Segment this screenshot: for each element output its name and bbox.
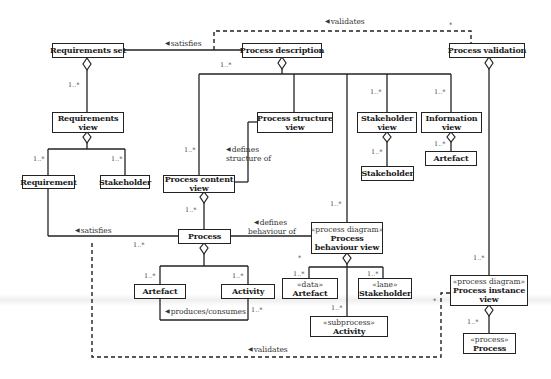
multiplicity: 1..*: [434, 88, 446, 96]
data-artefact-label: Artefact: [293, 289, 328, 298]
satisfies-mid-text: satisfies: [81, 226, 112, 235]
multiplicity: 1..*: [251, 306, 263, 314]
artefact-iv-label: Artefact: [434, 154, 469, 163]
multiplicity: 1..*: [185, 206, 197, 214]
process-instance-view-class: «process diagram» Process instance view: [450, 275, 528, 306]
requirements-view-class: Requirements view: [52, 112, 124, 133]
defines-structure-label: ◀defines structure of: [226, 144, 271, 163]
multiplicity: 1..*: [467, 318, 479, 326]
requirements-view-label-2: view: [79, 123, 98, 132]
artefact-class: Artefact: [134, 284, 186, 299]
process-validation-label: Process validation: [448, 46, 526, 55]
process-instance-view-label-2: view: [480, 295, 499, 304]
requirements-set-label: Requirements set: [50, 46, 126, 55]
process-label: Process: [188, 232, 221, 241]
requirements-set-class: Requirements set: [52, 43, 124, 58]
direction-arrow-icon: ◀: [165, 39, 170, 46]
satisfies-top-text: satisfies: [171, 39, 202, 48]
stakeholder-view-class: Stakeholder view: [357, 112, 417, 133]
multiplicity: 1..*: [220, 61, 232, 69]
process-content-view-class: Process content view: [163, 175, 235, 193]
multiplicity: 1..*: [367, 270, 379, 278]
defines-behaviour-text-1: defines: [260, 218, 287, 227]
multiplicity: 1..*: [473, 254, 485, 262]
direction-arrow-icon: ◀: [248, 345, 253, 352]
multiplicity: 1..*: [330, 200, 342, 208]
process-validation-class: Process validation: [449, 43, 525, 58]
direction-arrow-icon: ◀: [165, 307, 170, 314]
stakeholder-sv-class: Stakeholder: [361, 166, 414, 181]
direction-arrow-icon: ◀: [254, 218, 259, 225]
multiplicity: 1..*: [331, 304, 343, 312]
defines-structure-text-2: structure of: [226, 154, 271, 163]
produces-consumes-label: ◀produces/consumes: [165, 306, 246, 316]
direction-arrow-icon: ◀: [226, 145, 231, 152]
process-structure-view-label-2: view: [286, 123, 305, 132]
activity-label: Activity: [232, 287, 264, 296]
process-behaviour-view-label-2: behaviour view: [315, 243, 379, 252]
defines-behaviour-text-2: behaviour of: [248, 227, 296, 236]
process-description-class: Process description: [242, 43, 322, 58]
data-artefact-class: «data» Artefact: [282, 278, 338, 299]
process-behaviour-view-class: «process diagram» Process behaviour view: [311, 222, 383, 254]
multiplicity: 1..*: [370, 88, 382, 96]
multiplicity: *: [433, 297, 436, 305]
direction-arrow-icon: ◀: [75, 226, 80, 233]
activity-class: Activity: [221, 284, 275, 299]
multiplicity: 1..*: [144, 272, 156, 280]
process-instance-process-label: Process: [473, 344, 506, 353]
validates-top-text: validates: [331, 17, 365, 26]
process-instance-process-class: «process» Process: [463, 333, 516, 354]
multiplicity: *: [298, 254, 301, 262]
process-description-label: Process description: [240, 46, 324, 55]
multiplicity: 1..*: [232, 272, 244, 280]
information-view-class: Information view: [421, 112, 482, 133]
uml-diagram-canvas: Requirements set Process description Pro…: [0, 0, 551, 379]
subprocess-activity-label: Activity: [333, 327, 365, 336]
validates-bottom-text: validates: [254, 345, 288, 354]
artefact-label: Artefact: [143, 287, 178, 296]
information-view-label-2: view: [442, 123, 461, 132]
requirement-label: Requirement: [20, 178, 76, 187]
multiplicity: 1..*: [111, 155, 123, 163]
validates-bottom-label: ◀validates: [248, 344, 288, 354]
multiplicity: 1..*: [133, 241, 145, 249]
multiplicity: 1..*: [434, 140, 446, 148]
requirement-class: Requirement: [22, 175, 75, 189]
multiplicity: 1..*: [371, 148, 383, 156]
stakeholder-req-class: Stakeholder: [100, 175, 150, 189]
process-content-view-label-2: view: [190, 184, 209, 193]
defines-behaviour-label: ◀defines behaviour of: [248, 217, 296, 236]
stakeholder-view-label-2: view: [378, 123, 397, 132]
multiplicity: 1..*: [68, 81, 80, 89]
process-class: Process: [178, 229, 231, 244]
satisfies-top-label: ◀satisfies: [165, 38, 202, 48]
direction-arrow-icon: ◀: [325, 17, 330, 24]
stakeholder-req-label: Stakeholder: [99, 178, 151, 187]
satisfies-mid-label: ◀satisfies: [75, 225, 112, 235]
subprocess-activity-class: «subprocess» Activity: [310, 316, 388, 337]
validates-top-label: ◀validates: [325, 16, 365, 26]
lane-stakeholder-label: Stakeholder: [359, 289, 411, 298]
process-structure-view-class: Process structure view: [257, 112, 333, 133]
stakeholder-sv-label: Stakeholder: [361, 169, 413, 178]
multiplicity: *: [449, 21, 452, 29]
lane-stakeholder-class: «lane» Stakeholder: [358, 278, 412, 299]
artefact-iv-class: Artefact: [425, 151, 477, 166]
multiplicity: 1..*: [184, 146, 196, 154]
multiplicity: 1..*: [293, 270, 305, 278]
multiplicity: 1..*: [33, 155, 45, 163]
defines-structure-text-1: defines: [232, 145, 259, 154]
produces-consumes-text: produces/consumes: [171, 307, 246, 316]
